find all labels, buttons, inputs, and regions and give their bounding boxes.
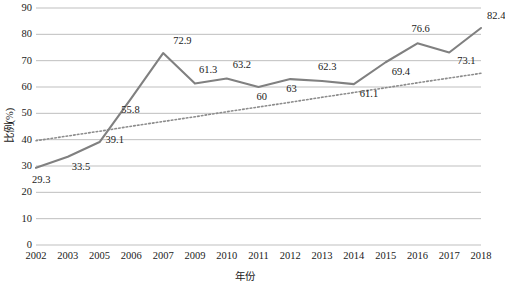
data-point-value-label: 60: [257, 91, 268, 102]
data-point-value-label: 63.2: [233, 59, 251, 70]
gridlines: [36, 8, 481, 245]
data-point-value-label: 82.4: [487, 10, 505, 21]
data-point-value-label: 69.4: [392, 66, 410, 77]
x-axis-ticks: 2002200320052006200720092010201120122013…: [0, 250, 489, 268]
data-point-value-label: 55.8: [121, 104, 139, 115]
data-point-value-label: 29.3: [32, 174, 50, 185]
trend-line-dotted: [36, 73, 481, 140]
data-point-value-label: 76.6: [411, 23, 429, 34]
data-point-value-label: 33.5: [72, 161, 90, 172]
data-point-value-label: 63: [286, 83, 297, 94]
data-point-value-label: 39.1: [106, 134, 124, 145]
x-axis-title: 年份: [0, 268, 489, 283]
data-point-value-label: 72.9: [173, 35, 191, 46]
x-tick-label: 2018: [461, 250, 501, 261]
data-point-value-label: 61.3: [199, 64, 217, 75]
data-point-value-label: 73.1: [457, 55, 475, 66]
data-point-value-label: 61.1: [360, 88, 378, 99]
data-point-value-label: 62.3: [318, 61, 336, 72]
